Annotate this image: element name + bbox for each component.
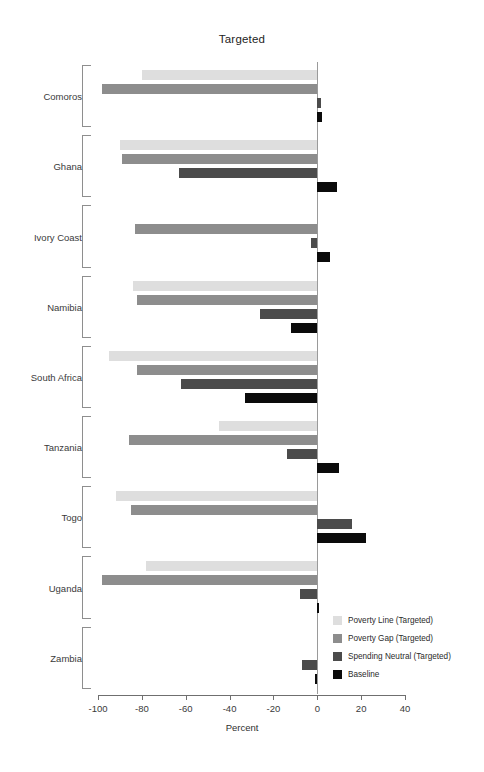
bar bbox=[317, 112, 321, 122]
legend-label: Poverty Gap (Targeted) bbox=[348, 634, 433, 643]
x-axis-tick-label: -60 bbox=[161, 703, 211, 714]
bar bbox=[219, 421, 318, 431]
category-bracket bbox=[82, 627, 91, 689]
bar-group bbox=[98, 132, 405, 202]
bar bbox=[142, 70, 317, 80]
category-label-togo: Togo bbox=[2, 512, 82, 523]
x-axis-tick bbox=[98, 695, 99, 700]
category-bracket bbox=[82, 65, 91, 127]
category-label-uganda: Uganda bbox=[2, 583, 82, 594]
category-label-namibia: Namibia bbox=[2, 302, 82, 313]
legend-swatch-icon bbox=[333, 634, 342, 643]
x-axis-tick-label: 40 bbox=[380, 703, 430, 714]
bar-set bbox=[98, 343, 405, 413]
legend-item[interactable]: Baseline bbox=[333, 665, 481, 683]
x-axis-tick bbox=[273, 695, 274, 700]
bar-group bbox=[98, 273, 405, 343]
bar-group bbox=[98, 62, 405, 132]
bar-set bbox=[98, 62, 405, 132]
bar bbox=[317, 182, 337, 192]
x-axis-tick bbox=[186, 695, 187, 700]
legend-label: Baseline bbox=[348, 670, 379, 679]
category-label-south-africa: South Africa bbox=[2, 372, 82, 383]
bar bbox=[317, 519, 352, 529]
legend-swatch-icon bbox=[333, 616, 342, 625]
bar bbox=[245, 393, 317, 403]
bar bbox=[179, 168, 317, 178]
x-axis-tick bbox=[317, 695, 318, 700]
bar bbox=[102, 575, 317, 585]
bar bbox=[133, 281, 317, 291]
bar bbox=[135, 224, 317, 234]
bar bbox=[317, 463, 339, 473]
bar-group bbox=[98, 202, 405, 272]
x-axis-line bbox=[98, 695, 405, 696]
category-bracket bbox=[82, 486, 91, 548]
bar bbox=[311, 238, 318, 248]
bar bbox=[109, 351, 317, 361]
x-axis-tick-label: -80 bbox=[117, 703, 167, 714]
bar bbox=[260, 309, 317, 319]
bar-set bbox=[98, 202, 405, 272]
category-label-tanzania: Tanzania bbox=[2, 442, 82, 453]
bar bbox=[317, 603, 319, 613]
bar bbox=[302, 660, 317, 670]
bar-group bbox=[98, 483, 405, 553]
bar bbox=[317, 252, 330, 262]
bar-group bbox=[98, 343, 405, 413]
x-axis-tick-label: -40 bbox=[205, 703, 255, 714]
x-axis-tick bbox=[361, 695, 362, 700]
bar bbox=[287, 449, 318, 459]
legend-label: Spending Neutral (Targeted) bbox=[348, 652, 451, 661]
category-bracket bbox=[82, 346, 91, 408]
category-bracket bbox=[82, 416, 91, 478]
category-bracket bbox=[82, 205, 91, 267]
category-bracket bbox=[82, 135, 91, 197]
bar bbox=[315, 674, 317, 684]
bar bbox=[120, 140, 317, 150]
x-axis-tick bbox=[405, 695, 406, 700]
legend-item[interactable]: Poverty Gap (Targeted) bbox=[333, 629, 481, 647]
category-label-zambia: Zambia bbox=[2, 653, 82, 664]
bar bbox=[300, 589, 318, 599]
category-label-ivory-coast: Ivory Coast bbox=[2, 232, 82, 243]
bar bbox=[137, 295, 317, 305]
bar bbox=[181, 379, 317, 389]
bar-set bbox=[98, 483, 405, 553]
chart-legend: Poverty Line (Targeted)Poverty Gap (Targ… bbox=[333, 611, 481, 683]
category-bracket bbox=[82, 556, 91, 618]
bar bbox=[291, 323, 317, 333]
legend-label: Poverty Line (Targeted) bbox=[348, 616, 433, 625]
bar bbox=[122, 154, 317, 164]
category-bracket bbox=[82, 276, 91, 338]
legend-swatch-icon bbox=[333, 670, 342, 679]
bar bbox=[317, 533, 365, 543]
plot-area bbox=[98, 62, 405, 694]
bar bbox=[102, 84, 317, 94]
bar bbox=[146, 561, 317, 571]
x-axis-tick-label: -20 bbox=[248, 703, 298, 714]
legend-item[interactable]: Spending Neutral (Targeted) bbox=[333, 647, 481, 665]
x-axis-tick-label: 20 bbox=[336, 703, 386, 714]
x-axis-tick bbox=[230, 695, 231, 700]
bar-set bbox=[98, 132, 405, 202]
x-axis-tick-label: -100 bbox=[73, 703, 123, 714]
chart-title: Targeted bbox=[0, 33, 484, 45]
x-axis-tick-label: 0 bbox=[292, 703, 342, 714]
bar-group bbox=[98, 413, 405, 483]
bar bbox=[116, 491, 318, 501]
category-label-comoros: Comoros bbox=[2, 91, 82, 102]
bar bbox=[137, 365, 317, 375]
x-axis-label: Percent bbox=[0, 722, 484, 733]
bar-set bbox=[98, 273, 405, 343]
bar-set bbox=[98, 413, 405, 483]
bar bbox=[317, 98, 320, 108]
legend-swatch-icon bbox=[333, 652, 342, 661]
category-label-ghana: Ghana bbox=[2, 161, 82, 172]
chart-figure: Targeted Percent Poverty Line (Targeted)… bbox=[0, 0, 484, 772]
bar bbox=[129, 435, 318, 445]
x-axis-tick bbox=[142, 695, 143, 700]
bar bbox=[131, 505, 317, 515]
legend-item[interactable]: Poverty Line (Targeted) bbox=[333, 611, 481, 629]
